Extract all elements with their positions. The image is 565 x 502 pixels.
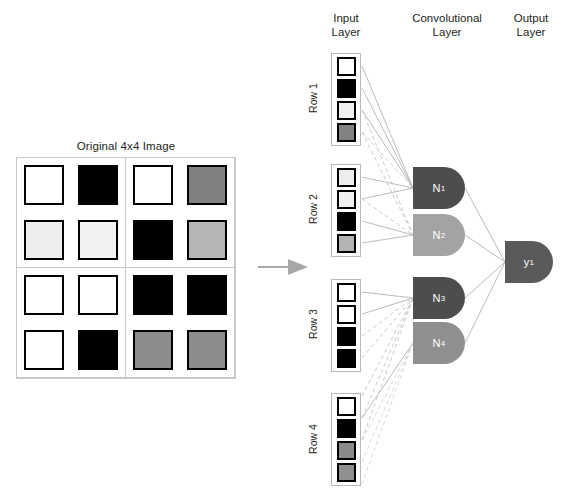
input-cell-r3c3 xyxy=(337,327,356,346)
output-node-y1: y1 xyxy=(505,241,553,283)
neuron-n2-sub: 2 xyxy=(441,231,446,240)
input-cell-r4c3 xyxy=(337,441,356,460)
input-row-group-2 xyxy=(331,164,361,257)
output-layer-header: Output Layer xyxy=(502,12,560,39)
input-cell-r2c2 xyxy=(337,190,356,209)
input-cell-r2c4 xyxy=(337,234,356,253)
input-cell-r1c2 xyxy=(337,79,356,98)
input-row-group-4 xyxy=(331,393,361,486)
connection-wires xyxy=(0,0,565,502)
input-cell-r3c2 xyxy=(337,305,356,324)
input-cell-r4c4 xyxy=(337,463,356,482)
neuron-n4: N4 xyxy=(413,322,465,364)
input-cell-r1c1 xyxy=(337,57,356,76)
input-cell-r4c2 xyxy=(337,419,356,438)
network-diagram: Input Layer Convolutional Layer Output L… xyxy=(0,0,565,502)
input-cell-r4c1 xyxy=(337,397,356,416)
input-cell-r3c4 xyxy=(337,349,356,368)
output-node-y1-sub: 1 xyxy=(530,258,535,267)
input-layer-header: Input Layer xyxy=(318,12,374,39)
diagram-canvas: Original 4x4 Image xyxy=(0,0,565,502)
neuron-n2-label: N xyxy=(433,229,441,241)
input-cell-r1c3 xyxy=(337,101,356,120)
input-cell-r2c3 xyxy=(337,212,356,231)
neuron-n3: N3 xyxy=(413,277,465,319)
row-label-2: Row 2 xyxy=(307,192,319,226)
neuron-n1-label: N xyxy=(433,182,441,194)
input-row-group-3 xyxy=(331,279,361,372)
row-label-4: Row 4 xyxy=(307,422,319,456)
neuron-n1-sub: 1 xyxy=(441,184,446,193)
input-row-group-1 xyxy=(331,53,361,146)
input-cell-r2c1 xyxy=(337,168,356,187)
neuron-n4-label: N xyxy=(433,337,441,349)
neuron-n1: N1 xyxy=(413,167,465,209)
input-cell-r1c4 xyxy=(337,123,356,142)
neuron-n2: N2 xyxy=(413,214,465,256)
input-cell-r3c1 xyxy=(337,283,356,302)
neuron-n3-label: N xyxy=(433,292,441,304)
row-label-1: Row 1 xyxy=(307,81,319,115)
row-label-3: Row 3 xyxy=(307,307,319,341)
convolutional-layer-header: Convolutional Layer xyxy=(398,12,496,39)
neuron-n3-sub: 3 xyxy=(441,294,446,303)
neuron-n4-sub: 4 xyxy=(441,339,446,348)
